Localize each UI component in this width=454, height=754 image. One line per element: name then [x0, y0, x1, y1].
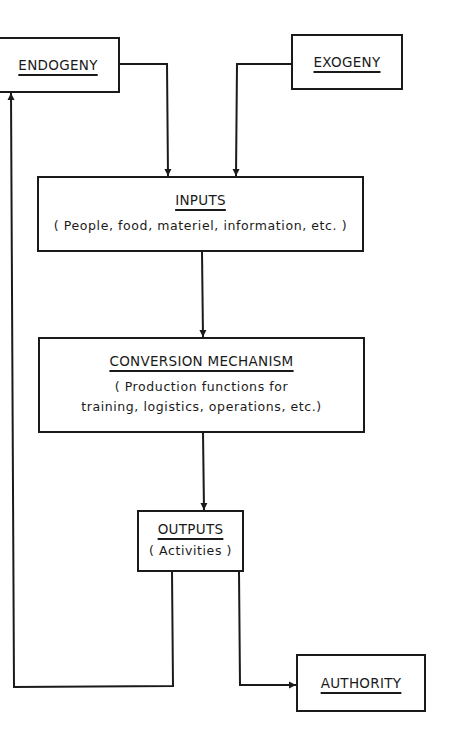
edge-outputs-authority: [239, 571, 296, 685]
endogeny-node: ENDOGENY: [0, 37, 120, 93]
outputs-title: OUTPUTS: [158, 521, 224, 537]
conversion-subtitle-line1: ( Production functions for: [115, 377, 289, 397]
conversion-node: CONVERSION MECHANISM ( Production functi…: [38, 337, 365, 433]
outputs-subtitle: ( Activities ): [149, 541, 232, 561]
edge-endogeny-inputs: [120, 64, 168, 176]
inputs-title: INPUTS: [175, 192, 226, 208]
inputs-subtitle: ( People, food, materiel, information, e…: [54, 216, 347, 236]
edge-conversion-outputs: [203, 432, 204, 510]
edge-exogeny-inputs: [236, 64, 291, 176]
conversion-subtitle-line2: training, logistics, operations, etc.): [81, 397, 322, 417]
authority-title: AUTHORITY: [321, 675, 402, 691]
authority-node: AUTHORITY: [296, 654, 426, 712]
conversion-title: CONVERSION MECHANISM: [109, 353, 293, 369]
outputs-node: OUTPUTS ( Activities ): [137, 510, 244, 572]
edge-inputs-conversion: [202, 251, 203, 337]
exogeny-title: EXOGENY: [314, 54, 381, 70]
endogeny-title: ENDOGENY: [18, 57, 97, 73]
inputs-node: INPUTS ( People, food, materiel, informa…: [37, 176, 364, 252]
exogeny-node: EXOGENY: [291, 34, 403, 90]
